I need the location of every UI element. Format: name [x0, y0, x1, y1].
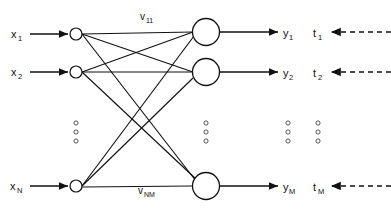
weight-labels: v 11 v NM — [138, 11, 155, 198]
weight-label-first-base: v — [140, 11, 145, 22]
t-ellipsis-dot-3 — [316, 139, 320, 143]
input-ellipsis-dot-1 — [74, 121, 78, 125]
y-ellipsis-dot-1 — [286, 121, 290, 125]
output-node-2 — [193, 59, 220, 86]
y-ellipsis-dot-2 — [286, 130, 290, 134]
t-ellipsis-dot-2 — [316, 130, 320, 134]
output-arrows — [220, 32, 278, 186]
neural-network-diagram: x 1 x 2 x N y 1 y 2 y M t 1 t 2 t M v — [0, 0, 391, 211]
output-node-m — [193, 173, 220, 200]
output-label-1-sub: 1 — [289, 33, 293, 42]
input-nodes — [70, 28, 82, 192]
output-labels: y 1 y 2 y M — [283, 27, 295, 196]
output-label-m-sub: M — [289, 187, 295, 196]
target-label-2-base: t — [313, 67, 316, 79]
weight-label-last-base: v — [138, 185, 143, 196]
edge-n-2 — [82, 78, 193, 186]
input-arrows — [30, 34, 68, 186]
output-ellipsis-dot-1 — [204, 121, 208, 125]
output-nodes — [193, 19, 220, 200]
edge-n-m — [82, 186, 192, 187]
input-label-n-sub: N — [17, 186, 22, 195]
output-label-2-sub: 2 — [289, 73, 293, 82]
target-label-1-sub: 1 — [318, 33, 322, 42]
input-label-2-sub: 2 — [18, 72, 22, 81]
input-node-n — [70, 180, 82, 192]
input-label-1-sub: 1 — [18, 34, 22, 43]
input-node-2 — [70, 66, 82, 78]
input-label-n-base: x — [10, 180, 16, 192]
input-node-1 — [70, 28, 82, 40]
target-arrows — [331, 32, 391, 186]
edge-1-1 — [82, 32, 193, 34]
target-label-2-sub: 2 — [318, 73, 322, 82]
output-ellipsis-dot-3 — [204, 139, 208, 143]
input-label-2-base: x — [11, 66, 17, 78]
target-label-m-base: t — [313, 181, 316, 193]
y-ellipsis-dot-3 — [286, 139, 290, 143]
input-ellipsis-dot-3 — [74, 139, 78, 143]
output-node-1 — [193, 19, 220, 46]
synapse-edges — [82, 32, 197, 187]
input-ellipsis-dot-2 — [74, 130, 78, 134]
ellipsis-dots — [74, 121, 320, 143]
target-labels: t 1 t 2 t M — [313, 27, 324, 196]
input-labels: x 1 x 2 x N — [10, 28, 22, 195]
input-label-1-base: x — [11, 28, 17, 40]
edge-n-1 — [82, 36, 194, 186]
target-label-1-base: t — [313, 27, 316, 39]
output-ellipsis-dot-2 — [204, 130, 208, 134]
network-svg: x 1 x 2 x N y 1 y 2 y M t 1 t 2 t M v — [0, 0, 391, 211]
target-label-m-sub: M — [318, 187, 324, 196]
weight-label-first-sub: 11 — [146, 17, 153, 24]
weight-label-last-sub: NM — [144, 191, 155, 198]
t-ellipsis-dot-1 — [316, 121, 320, 125]
